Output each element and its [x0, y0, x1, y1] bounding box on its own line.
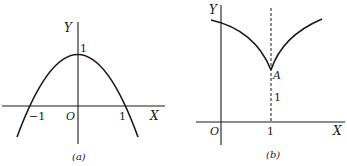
panel-a-tick-neg-one: −1 — [29, 110, 45, 123]
panel-b-left-curve — [211, 20, 271, 70]
panel-b-y-axis-label: Y — [209, 3, 218, 17]
figure: Y 1 −1 O 1 X (a) Y A 1 O 1 X (b) — [0, 0, 347, 166]
panel-b-tick-x-one: 1 — [267, 125, 274, 138]
panel-a-x-axis-label: X — [149, 109, 159, 123]
panel-b-x-axis-label: X — [332, 124, 342, 138]
panel-b-right-curve — [271, 19, 322, 70]
panel-b-point-a-label: A — [272, 69, 281, 82]
panel-b-origin-label: O — [210, 125, 219, 138]
panel-a-caption: (a) — [72, 151, 86, 162]
panel-a-origin-label: O — [66, 110, 75, 123]
panel-a-y-axis-label: Y — [64, 21, 73, 35]
panel-b-caption: (b) — [266, 149, 280, 160]
panel-a: Y 1 −1 O 1 X (a) — [2, 21, 165, 162]
panel-b: Y A 1 O 1 X (b) — [196, 3, 345, 160]
panel-a-y-intercept-label: 1 — [80, 42, 87, 55]
panel-a-tick-pos-one: 1 — [119, 110, 126, 123]
panel-b-dashed-height-label: 1 — [274, 91, 281, 104]
